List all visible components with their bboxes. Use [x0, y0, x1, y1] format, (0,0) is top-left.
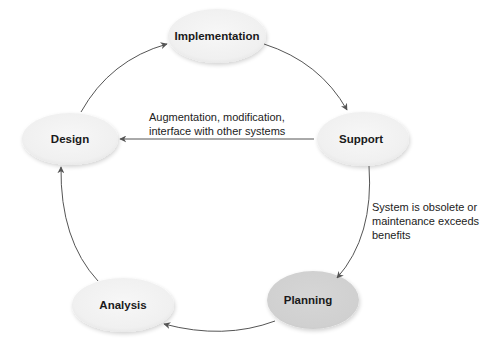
- label-analysis: Analysis: [99, 299, 146, 311]
- arrow-implementation-to-support: [264, 44, 347, 110]
- annotation-support-to-planning: System is obsolete or maintenance exceed…: [372, 200, 479, 242]
- arrow-planning-to-analysis: [164, 321, 275, 331]
- arrow-design-to-implementation: [81, 44, 167, 112]
- arrow-analysis-to-design: [61, 167, 98, 281]
- annotation-line: interface with other systems: [149, 124, 285, 138]
- label-support: Support: [339, 133, 383, 145]
- arrow-support-to-planning: [337, 166, 370, 278]
- label-design: Design: [51, 133, 89, 145]
- annotation-line: System is obsolete or: [372, 200, 479, 214]
- label-implementation: Implementation: [175, 30, 260, 42]
- sdlc-cycle-diagram: Implementation Support Planning Analysis…: [0, 0, 498, 356]
- annotation-support-to-design: Augmentation, modification, interface wi…: [149, 110, 285, 138]
- annotation-line: benefits: [372, 228, 479, 242]
- label-planning: Planning: [284, 294, 333, 306]
- annotation-line: maintenance exceeds: [372, 214, 479, 228]
- diagram-canvas: [0, 0, 498, 356]
- annotation-line: Augmentation, modification,: [149, 110, 285, 124]
